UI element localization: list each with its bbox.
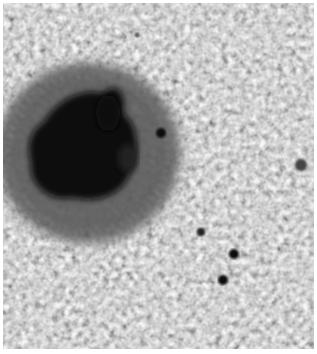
pore xyxy=(295,159,307,171)
pore xyxy=(229,249,239,259)
pore xyxy=(135,33,140,38)
pore xyxy=(197,228,205,236)
sunspot-photo xyxy=(3,3,314,349)
sunspot xyxy=(3,63,180,243)
solar-image xyxy=(3,3,314,349)
pore xyxy=(156,128,166,138)
pore xyxy=(218,275,228,285)
